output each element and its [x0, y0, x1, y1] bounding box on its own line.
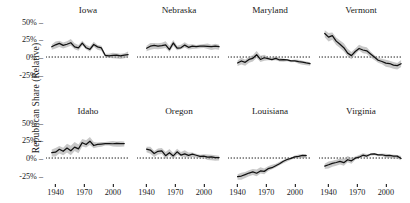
x-tick-label: 1970 — [76, 184, 92, 197]
panel-title: Nebraska — [137, 4, 221, 16]
panel-title: Vermont — [319, 4, 403, 16]
panel-title: Louisiana — [228, 105, 312, 117]
panel-row-bottom: 50%–25%–0%–-25%– Idaho194019702000Oregon… — [0, 105, 410, 201]
y-tick-label: 0%– — [26, 53, 43, 62]
facet-panel: Vermont — [319, 4, 403, 100]
x-tick-label: 1940 — [320, 184, 336, 197]
x-axis: 194019702000 — [228, 184, 312, 201]
facet-panel: Oregon194019702000 — [137, 105, 221, 201]
y-tick-mark: – — [39, 171, 43, 180]
x-tick-mark — [84, 184, 85, 187]
y-tick-label: 0%– — [26, 154, 43, 163]
x-tick-mark — [146, 184, 147, 187]
x-tick-label: 2000 — [287, 184, 303, 197]
x-tick-mark — [357, 184, 358, 187]
x-tick-label: 1940 — [229, 184, 245, 197]
y-tick-label: 50%– — [22, 118, 43, 127]
y-tick-mark: – — [39, 136, 43, 145]
x-axis: 194019702000 — [319, 184, 403, 201]
confidence-band — [238, 154, 307, 180]
panel-title: Virginia — [319, 105, 403, 117]
x-tick-label: 2000 — [378, 184, 394, 197]
panel-title: Iowa — [46, 4, 130, 16]
facet-panel: Iowa — [46, 4, 130, 100]
x-tick-mark — [294, 184, 295, 187]
y-axis-ticks-top: 50%–25%–0%–-25%– — [0, 4, 46, 100]
x-tick-label: 1970 — [349, 184, 365, 197]
x-tick-mark — [385, 184, 386, 187]
panel-row-top: 50%–25%–0%–-25%– IowaNebraskaMarylandVer… — [0, 4, 410, 100]
panel-title: Maryland — [228, 4, 312, 16]
y-tick-mark: – — [39, 154, 43, 163]
facet-panel: Louisiana194019702000 — [228, 105, 312, 201]
x-tick-mark — [266, 184, 267, 187]
x-tick-label: 1970 — [258, 184, 274, 197]
y-tick-mark: – — [39, 118, 43, 127]
y-tick-mark: – — [39, 53, 43, 62]
facet-panel: Maryland — [228, 4, 312, 100]
y-tick-mark: – — [39, 35, 43, 44]
panel-title: Idaho — [46, 105, 130, 117]
x-tick-mark — [175, 184, 176, 187]
y-tick-label: 25%– — [22, 35, 43, 44]
x-tick-label: 1970 — [167, 184, 183, 197]
x-tick-mark — [55, 184, 56, 187]
x-tick-mark — [203, 184, 204, 187]
panel-plot-area — [137, 118, 221, 184]
x-tick-mark — [112, 184, 113, 187]
panel-plot-area — [319, 17, 403, 83]
x-tick-mark — [328, 184, 329, 187]
y-tick-label: -25%– — [19, 171, 43, 180]
panel-plot-area — [46, 17, 130, 83]
panel-plot-area — [228, 118, 312, 184]
y-tick-label: 50%– — [22, 17, 43, 26]
facet-panel: Virginia194019702000 — [319, 105, 403, 201]
y-tick-label: -25%– — [19, 70, 43, 79]
confidence-band — [52, 137, 125, 157]
x-axis: 194019702000 — [46, 184, 130, 201]
x-tick-mark — [237, 184, 238, 187]
panel-plot-area — [137, 17, 221, 83]
y-axis-ticks-bottom: 50%–25%–0%–-25%– — [0, 105, 46, 201]
panel-title: Oregon — [137, 105, 221, 117]
x-tick-label: 1940 — [138, 184, 154, 197]
chart-root: Republican Share (Relative) 50%–25%–0%–-… — [0, 0, 410, 203]
panel-plot-area — [228, 17, 312, 83]
facet-panel: Idaho194019702000 — [46, 105, 130, 201]
x-axis: 194019702000 — [137, 184, 221, 201]
panel-plot-area — [319, 118, 403, 184]
y-tick-label: 25%– — [22, 136, 43, 145]
facet-panel: Nebraska — [137, 4, 221, 100]
x-tick-label: 1940 — [47, 184, 63, 197]
x-tick-label: 2000 — [105, 184, 121, 197]
x-tick-label: 2000 — [196, 184, 212, 197]
confidence-band — [147, 147, 220, 161]
panel-plot-area — [46, 118, 130, 184]
y-tick-mark: – — [39, 70, 43, 79]
y-tick-mark: – — [39, 17, 43, 26]
